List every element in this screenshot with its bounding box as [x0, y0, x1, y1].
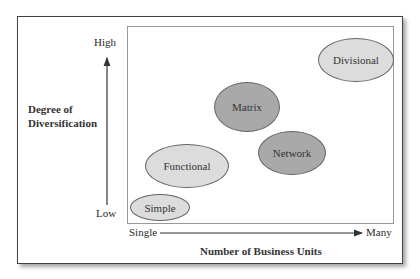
ellipse-divisional: Divisional [318, 38, 394, 82]
label-functional: Functional [163, 160, 210, 172]
y-axis-title-line1: Degree of [28, 102, 97, 116]
label-simple: Simple [144, 202, 175, 214]
y-axis-low-label: Low [96, 207, 116, 219]
ellipse-matrix: Matrix [214, 82, 280, 132]
label-matrix: Matrix [232, 101, 262, 113]
y-axis-title: Degree of Diversification [28, 102, 97, 130]
y-axis-high-label: High [94, 36, 116, 48]
y-axis-title-line2: Diversification [28, 116, 97, 130]
x-axis-start-label: Single [129, 226, 157, 238]
ellipse-simple: Simple [130, 194, 190, 221]
x-axis-title: Number of Business Units [200, 245, 322, 257]
label-network: Network [273, 147, 312, 159]
x-axis-end-label: Many [366, 226, 392, 238]
ellipse-functional: Functional [145, 144, 229, 188]
ellipse-network: Network [258, 131, 326, 175]
label-divisional: Divisional [333, 54, 379, 66]
